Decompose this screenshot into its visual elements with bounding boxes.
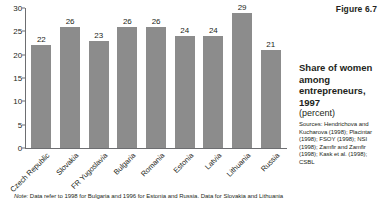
x-category-label: Slovakia [54,151,80,177]
note-text: Data refer to 1998 for Bulgaria and 1996… [30,193,283,199]
y-axis-line [25,8,26,148]
bar-value-label: 24 [209,26,218,35]
y-tick-label: 25 [13,27,22,36]
bar-item[interactable]: 26 [60,8,80,148]
bar-item[interactable]: 21 [261,8,281,148]
y-tick-mark [22,78,25,79]
bar-item[interactable]: 24 [203,8,223,148]
bar-rect [232,13,252,148]
figure-sources: Sources: Hendrichova and Kucharova (1998… [299,121,379,167]
x-category-label: Czech Republic [9,151,52,194]
figure-caption-block: Share of women among entrepreneurs, 1997… [299,62,379,167]
x-category-label: Latvia [203,151,223,171]
sources-label: Sources: [299,121,322,127]
bar-value-label: 26 [152,17,161,26]
y-tick-label: 30 [13,4,22,13]
figure-container: Figure 6.7 051015202530 2226232626242429… [0,0,381,206]
bar-rect [261,50,281,148]
bar-value-label: 26 [66,17,75,26]
bar-item[interactable]: 22 [31,8,51,148]
bar-item[interactable]: 24 [175,8,195,148]
bar-rect [146,27,166,148]
bar-value-label: 24 [180,26,189,35]
y-tick-mark [22,124,25,125]
bar-item[interactable]: 26 [117,8,137,148]
bar-value-label: 22 [37,35,46,44]
x-category-label: Estonia [171,151,195,175]
y-tick-label: 20 [13,50,22,59]
y-tick-mark [22,54,25,55]
figure-note: Note: Data refer to 1998 for Bulgaria an… [14,192,286,200]
bar-rect [89,41,109,148]
y-axis: 051015202530 [0,8,22,148]
note-label: Note: [14,193,28,199]
figure-subtitle: (percent) [299,108,379,119]
chart-plot-area: 051015202530 222623262624242921 Czech Re… [0,8,290,188]
y-tick-mark [22,101,25,102]
y-tick-mark [22,148,25,149]
bar-rect [60,27,80,148]
bar-value-label: 26 [123,17,132,26]
bars-group: 222623262624242921 [27,8,285,148]
bar-rect [31,45,51,148]
figure-number-label: Figure 6.7 [336,4,377,14]
x-category-label: Russia [259,151,281,173]
bar-value-label: 29 [238,3,247,12]
y-tick-label: 15 [13,74,22,83]
figure-title: Share of women among entrepreneurs, 1997 [299,62,379,108]
y-tick-mark [22,31,25,32]
x-axis-category-labels: Czech RepublicSlovakiaFR YugoslaviaBulga… [27,151,289,193]
sources-text: Hendrichova and Kucharova (1998); Placin… [299,121,372,165]
x-axis-line [25,148,287,149]
bar-item[interactable]: 26 [146,8,166,148]
bar-rect [117,27,137,148]
y-tick-label: 10 [13,97,22,106]
bar-rect [203,36,223,148]
x-category-label: Bulgaria [112,151,138,177]
bar-rect [175,36,195,148]
x-category-label: Romania [139,151,166,178]
y-tick-mark [22,8,25,9]
bar-value-label: 21 [266,40,275,49]
bar-item[interactable]: 29 [232,8,252,148]
x-category-label: Lithuania [225,151,253,179]
bar-value-label: 23 [94,31,103,40]
bar-item[interactable]: 23 [89,8,109,148]
